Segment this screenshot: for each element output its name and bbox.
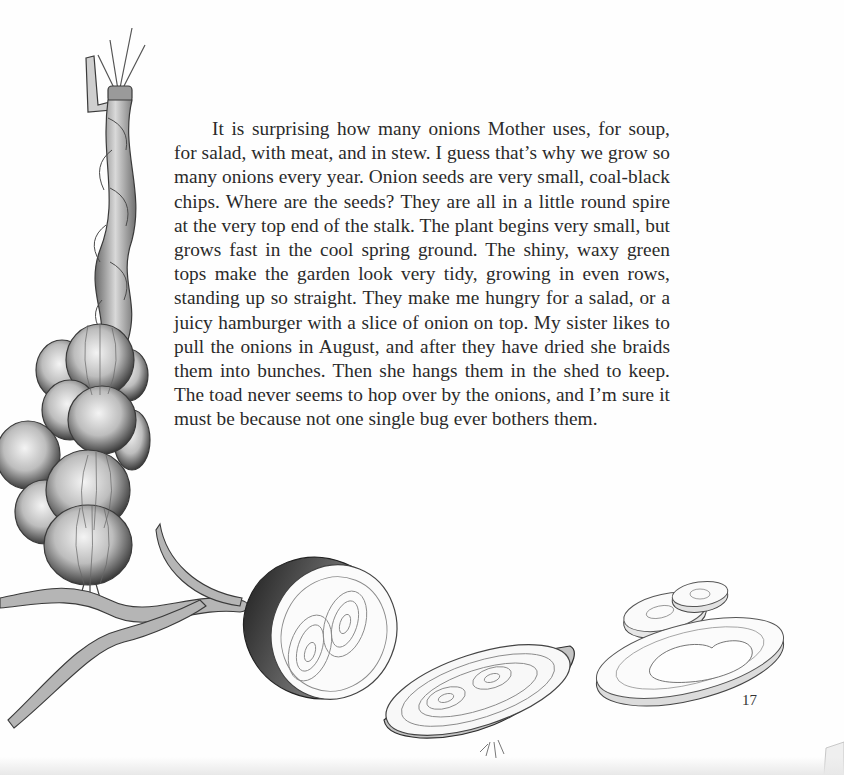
body-paragraph: It is surprising how many onions Mother … bbox=[174, 117, 670, 432]
braided-onion-string bbox=[0, 28, 150, 600]
onion-half-cut bbox=[222, 535, 417, 721]
scan-bottom-shadow bbox=[0, 757, 844, 775]
book-page: It is surprising how many onions Mother … bbox=[0, 0, 844, 775]
onion-slices bbox=[588, 578, 792, 722]
body-paragraph-container: It is surprising how many onions Mother … bbox=[174, 117, 670, 432]
page-number: 17 bbox=[742, 692, 757, 709]
onion-half-lying bbox=[376, 626, 581, 758]
